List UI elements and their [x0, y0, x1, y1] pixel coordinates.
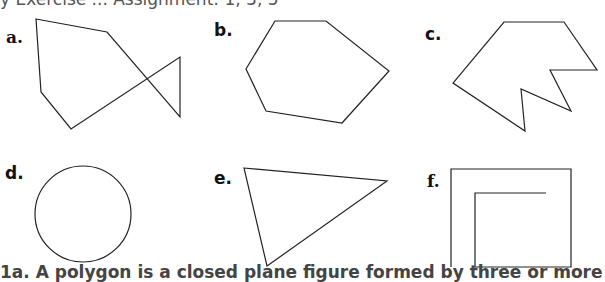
figure-f-spiral	[451, 169, 571, 267]
figure-b-hexagon	[246, 21, 389, 123]
figure-c-concave-polygon	[453, 22, 597, 131]
clipped-footer-text: 1a. A polygon is a closed plane figure f…	[0, 262, 605, 282]
figure-a-fish-polygon	[36, 19, 180, 129]
figure-e-triangle	[244, 168, 387, 266]
figure-d-circle	[35, 166, 131, 262]
